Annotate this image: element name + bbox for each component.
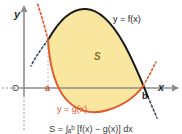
lower-curve-dotted-extension-right (143, 62, 156, 86)
lower-curve-dotted-extension (37, 2, 48, 40)
figure-canvas (0, 0, 182, 134)
upper-curve-dotted-extension (31, 40, 48, 66)
origin-label: O (12, 84, 19, 93)
x-axis-label: x (158, 82, 164, 93)
region-label-S: S (94, 52, 101, 62)
upper-curve-dotted-extension-right (148, 97, 157, 118)
area-formula: S = ∫ₐᵇ [f(x) − g(x)] dx (0, 124, 182, 134)
area-between-curves-figure: y x O a b S y = f(x) y = g(x) S = ∫ₐᵇ [f… (0, 0, 182, 134)
curve-label-f: y = f(x) (113, 15, 141, 24)
curve-label-g: y = g(x) (57, 105, 87, 114)
lower-bound-label-a: a (45, 84, 50, 93)
x-axis-arrow-icon (172, 85, 179, 92)
y-axis-label: y (14, 9, 20, 20)
upper-bound-label-b: b (142, 92, 148, 101)
y-axis-arrow-icon (21, 5, 28, 12)
